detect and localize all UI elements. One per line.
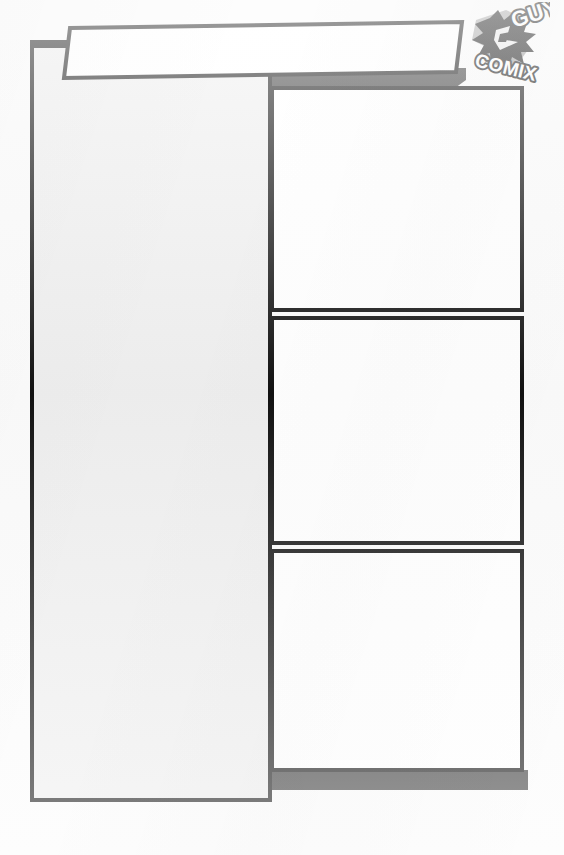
panel-right-2[interactable] xyxy=(272,318,522,543)
logo-word-guy-text: GUY xyxy=(508,2,550,33)
panel-right-3-frame xyxy=(272,551,522,770)
title-banner[interactable] xyxy=(64,22,462,78)
comic-page: GUY COMIX xyxy=(0,0,564,855)
panel-left-tall-frame xyxy=(32,42,270,800)
title-banner-frame xyxy=(64,22,462,78)
panel-right-1-frame xyxy=(272,88,522,310)
shadow-bottom-bar xyxy=(270,770,528,790)
artboard xyxy=(0,0,564,855)
guy-comix-logo[interactable]: GUY COMIX xyxy=(466,2,550,84)
panel-right-2-frame xyxy=(272,318,522,543)
page-artwork xyxy=(0,0,564,855)
panel-left-tall[interactable] xyxy=(32,42,270,800)
panel-right-3[interactable] xyxy=(272,551,522,770)
panel-right-1[interactable] xyxy=(272,88,522,310)
logo-word-guy: GUY xyxy=(508,2,550,33)
